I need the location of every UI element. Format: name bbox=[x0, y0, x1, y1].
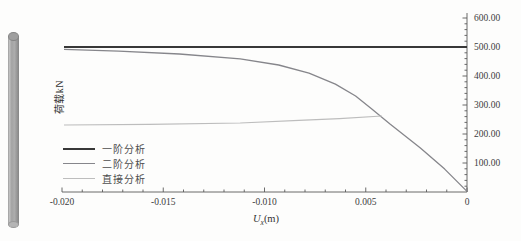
figure: 100.00200.00300.00400.00500.00600.00-0.0… bbox=[0, 0, 521, 241]
legend: 一阶分析 二阶分析 直接分析 bbox=[63, 141, 146, 186]
legend-label: 直接分析 bbox=[102, 171, 146, 186]
legend-line-sample bbox=[63, 148, 95, 150]
legend-label: 二阶分析 bbox=[102, 156, 146, 171]
y-axis-label: 荷载kN bbox=[51, 69, 65, 125]
y-tick-label: 500.00 bbox=[474, 42, 500, 52]
legend-item-direct: 直接分析 bbox=[63, 171, 146, 186]
x-tick-label: -0.015 bbox=[151, 197, 176, 207]
legend-label: 一阶分析 bbox=[102, 141, 146, 156]
x-tick-label: -0.020 bbox=[50, 197, 75, 207]
legend-line-sample bbox=[63, 178, 95, 179]
x-tick-label: 0.005 bbox=[355, 197, 377, 207]
y-tick-label: 100.00 bbox=[474, 158, 500, 168]
y-tick-label: 600.00 bbox=[474, 13, 500, 23]
x-tick-label: 0 bbox=[465, 197, 470, 207]
load-displacement-chart: 100.00200.00300.00400.00500.00600.00-0.0… bbox=[0, 0, 521, 241]
legend-item-first-order: 一阶分析 bbox=[63, 141, 146, 156]
series-3 bbox=[64, 116, 382, 125]
y-tick-label: 400.00 bbox=[474, 71, 500, 81]
legend-item-second-order: 二阶分析 bbox=[63, 156, 146, 171]
x-tick-label: -0.010 bbox=[252, 197, 277, 207]
legend-line-sample bbox=[63, 163, 95, 164]
y-tick-label: 300.00 bbox=[474, 100, 500, 110]
y-tick-label: 200.00 bbox=[474, 129, 500, 139]
x-axis-label: Ux(m) bbox=[253, 213, 280, 227]
